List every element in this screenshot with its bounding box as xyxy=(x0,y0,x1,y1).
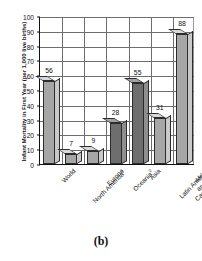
gridline-vertical xyxy=(84,17,85,164)
bar-value-label: 55 xyxy=(134,69,142,76)
bar-value-label: 9 xyxy=(91,137,95,144)
y-tick-label: 90 xyxy=(27,28,34,35)
y-tick-label: 40 xyxy=(27,102,34,109)
plot-area: 0102030405060708090100 567928553188 xyxy=(39,17,194,165)
gridline-vertical xyxy=(173,17,174,164)
bar-side-face xyxy=(55,78,60,164)
bar-value-label: 28 xyxy=(112,109,120,116)
y-tick-label: 30 xyxy=(27,117,34,124)
y-tick-label: 100 xyxy=(23,14,34,21)
bar: 55 xyxy=(132,83,144,164)
bar-value-label: 7 xyxy=(69,140,73,147)
y-tick-label: 80 xyxy=(27,43,34,50)
gridline-vertical xyxy=(151,17,152,164)
bar-front-face xyxy=(110,123,122,164)
bar-front-face xyxy=(176,34,188,164)
y-tick-label: 10 xyxy=(27,147,34,154)
bar-side-face xyxy=(122,119,127,164)
y-tick-mark xyxy=(37,135,40,136)
bar: 9 xyxy=(87,151,99,164)
bar: 28 xyxy=(110,123,122,164)
y-tick-mark xyxy=(37,105,40,106)
y-tick-mark xyxy=(37,31,40,32)
bar: 7 xyxy=(65,154,77,164)
gridline-vertical xyxy=(129,17,130,164)
bar-top-face xyxy=(124,78,144,83)
x-category-label: World xyxy=(61,168,77,184)
bar-side-face xyxy=(188,31,193,164)
y-tick-mark xyxy=(37,61,40,62)
bar-value-label: 31 xyxy=(156,104,164,111)
figure-caption: (b) xyxy=(0,234,202,249)
gridline-vertical xyxy=(62,17,63,164)
bar-front-face xyxy=(87,151,99,164)
y-tick-label: 70 xyxy=(27,58,34,65)
bar-value-label: 56 xyxy=(45,67,53,74)
bar-side-face xyxy=(99,148,104,164)
bar: 56 xyxy=(43,81,55,164)
bar-front-face xyxy=(65,154,77,164)
y-tick-label: 60 xyxy=(27,73,34,80)
y-tick-mark xyxy=(37,120,40,121)
bar-side-face xyxy=(77,151,82,164)
gridline-vertical xyxy=(106,17,107,164)
bar-side-face xyxy=(144,79,149,164)
bar: 31 xyxy=(154,118,166,164)
bar-front-face xyxy=(132,83,144,164)
y-tick-label: 0 xyxy=(30,162,34,169)
figure-infant-mortality: Infant Mortality in First Year (per 1,00… xyxy=(0,0,202,261)
bar-top-face xyxy=(168,29,188,34)
y-axis-title: Infant Mortality in First Year (per 1,00… xyxy=(20,17,27,167)
bar-front-face xyxy=(154,118,166,164)
y-tick-mark xyxy=(37,165,40,166)
bar-front-face xyxy=(43,81,55,164)
bar-value-label: 88 xyxy=(178,20,186,27)
y-tick-mark xyxy=(37,91,40,92)
bar-side-face xyxy=(166,115,171,164)
y-tick-label: 50 xyxy=(27,88,34,95)
y-tick-mark xyxy=(37,46,40,47)
y-tick-label: 20 xyxy=(27,132,34,139)
bar: 88 xyxy=(176,34,188,164)
y-tick-mark xyxy=(37,150,40,151)
y-tick-mark xyxy=(37,17,40,18)
bar-top-face xyxy=(101,118,121,123)
